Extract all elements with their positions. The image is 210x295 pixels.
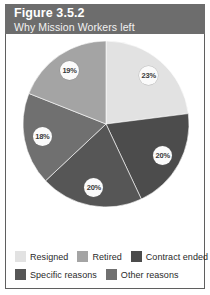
pie-slice-value-label: 18% — [33, 127, 52, 146]
legend-item-specific-reasons[interactable]: Specific reasons — [15, 269, 97, 280]
legend-item-other-reasons[interactable]: Other reasons — [106, 269, 179, 280]
chart-panel: 23%20%20%18%19% Resigned Retired Contrac… — [5, 34, 205, 289]
legend-label-contract-ended: Contract ended — [146, 252, 208, 262]
legend-item-retired[interactable]: Retired — [77, 251, 121, 262]
legend-label-other-reasons: Other reasons — [121, 270, 179, 280]
legend-label-retired: Retired — [92, 252, 121, 262]
legend-row-1: Resigned Retired Contract ended — [15, 251, 206, 262]
figure-container: Figure 3.5.2 Why Mission Workers left 23… — [0, 0, 210, 295]
figure-number: Figure 3.5.2 — [14, 6, 205, 21]
legend-swatch-icon-specific-reasons — [15, 269, 26, 280]
legend-swatch-icon-other-reasons — [106, 269, 117, 280]
pie-chart: 23%20%20%18%19% — [6, 34, 206, 212]
legend-row-2: Specific reasons Other reasons — [15, 269, 206, 280]
pie-slice-value-label: 19% — [60, 61, 79, 80]
legend-swatch-icon-resigned — [15, 251, 26, 262]
pie-slice-value-label: 20% — [153, 146, 172, 165]
figure-caption: Why Mission Workers left — [14, 21, 205, 34]
legend-item-contract-ended[interactable]: Contract ended — [131, 251, 208, 262]
legend-item-resigned[interactable]: Resigned — [15, 251, 68, 262]
legend-swatch-icon-retired — [77, 251, 88, 262]
pie-chart-svg — [15, 40, 197, 208]
chart-legend: Resigned Retired Contract ended Specific… — [6, 251, 206, 288]
legend-label-resigned: Resigned — [30, 252, 68, 262]
legend-swatch-icon-contract-ended — [131, 251, 142, 262]
figure-header: Figure 3.5.2 Why Mission Workers left — [5, 4, 205, 34]
legend-label-specific-reasons: Specific reasons — [30, 270, 97, 280]
